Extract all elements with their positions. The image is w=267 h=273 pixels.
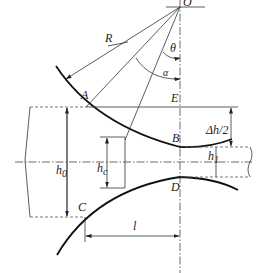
rolling-diagram: O R θ α A E B D C Δh/2 h0 hc h1 l — [0, 0, 267, 273]
label-D: D — [170, 180, 180, 194]
label-B: B — [172, 131, 180, 145]
label-delta-h-half: Δh/2 — [205, 123, 228, 137]
label-l: l — [133, 219, 137, 233]
label-h0: h0 — [56, 163, 67, 179]
label-O: O — [183, 0, 192, 9]
label-hc: hc — [97, 161, 108, 177]
lower-roll-contour — [57, 177, 238, 255]
label-theta: θ — [170, 41, 176, 55]
label-A: A — [80, 88, 89, 102]
label-alpha: α — [163, 67, 169, 78]
label-C: C — [78, 200, 87, 214]
label-R: R — [104, 31, 113, 45]
label-E: E — [170, 91, 179, 105]
label-h1: h1 — [208, 149, 219, 165]
